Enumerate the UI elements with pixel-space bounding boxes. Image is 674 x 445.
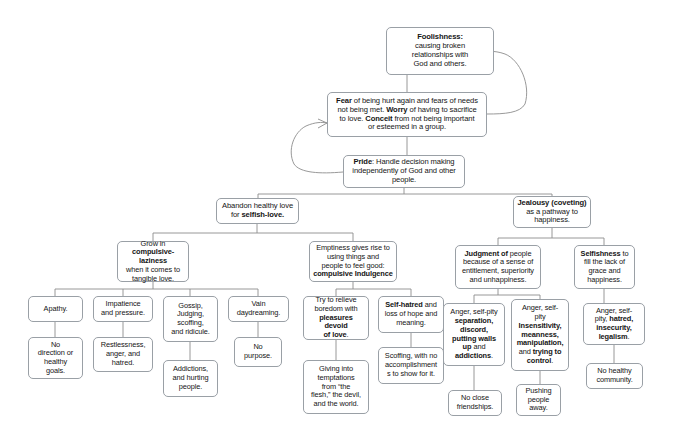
diagram-canvas: Foolishness:causing brokenrelationships … (0, 0, 674, 445)
node-addictions-hurting-people[interactable]: Addictions,and hurtingpeople. (163, 360, 218, 397)
node-pride[interactable]: Pride: Handle decision makingindependent… (343, 155, 465, 188)
node-emptiness-compulsive-indulgence[interactable]: Emptiness gives rise tousing things andp… (309, 241, 397, 282)
node-judgment-of-people[interactable]: Judgment of peoplebecause of a sense ofe… (455, 245, 541, 289)
node-giving-into-temptations-label: Giving intotemptationsfrom “theflesh,” t… (307, 365, 365, 409)
node-no-purpose[interactable]: Nopurpose. (234, 337, 282, 367)
node-compulsive-laziness-label: Grow incompulsive-lazinesswhen it comes … (121, 240, 185, 284)
node-selfishness-label: Selfishness tofill the lack ofgrace andh… (578, 250, 631, 285)
node-anger-hatred-insecurity-legalism-label: Anger, self-pity, hatred,insecurity,lega… (587, 307, 641, 342)
node-impatience-and-pressure[interactable]: Impatienceand pressure. (93, 296, 153, 322)
node-fear-worry-conceit-label: Fear of being hurt again and fears of ne… (331, 97, 483, 133)
node-foolishness-label: Foolishness:causing brokenrelationships … (390, 33, 490, 69)
node-gossip-judging-scoffing-label: Gossip,Judging,scoffing,and ridicule. (167, 302, 214, 337)
node-restlessness-anger-hatred[interactable]: Restlessness,anger, andhatred. (93, 337, 153, 372)
node-relieve-boredom[interactable]: Try to relieveboredom withpleasures devo… (303, 296, 369, 340)
node-fear-worry-conceit[interactable]: Fear of being hurt again and fears of ne… (327, 92, 487, 137)
node-anger-separation-discord[interactable]: Anger, self-pityseparation,discord,putti… (443, 303, 505, 366)
node-gossip-judging-scoffing[interactable]: Gossip,Judging,scoffing,and ridicule. (163, 296, 218, 342)
node-scoffing-no-accomplishments-label: Scoffing, with noaccomplishments to show… (382, 352, 440, 378)
edge-emptiness-bus (336, 282, 411, 296)
node-no-direction-healthy-goals-label: Nodirection orhealthygoals. (32, 341, 79, 376)
node-anger-separation-discord-label: Anger, self-pityseparation,discord,putti… (447, 308, 501, 360)
node-emptiness-compulsive-indulgence-label: Emptiness gives rise tousing things andp… (313, 244, 393, 279)
node-apathy[interactable]: Apathy. (28, 296, 83, 322)
node-jealousy-coveting[interactable]: Jealousy (coveting)as a pathway tohappin… (513, 196, 591, 228)
node-no-close-friendships[interactable]: No closefriendships. (448, 390, 502, 416)
node-foolishness[interactable]: Foolishness:causing brokenrelationships … (386, 27, 494, 75)
node-abandon-healthy-love[interactable]: Abandon healthy lovefor selfish-love. (216, 198, 299, 224)
node-vain-daydreaming-label: Vaindaydreaming. (232, 300, 285, 317)
node-no-healthy-community-label: No healthycommunity. (590, 367, 639, 384)
node-no-close-friendships-label: No closefriendships. (452, 394, 498, 411)
node-selfishness[interactable]: Selfishness tofill the lack ofgrace andh… (574, 245, 635, 289)
node-pushing-people-away[interactable]: Pushingpeopleaway. (516, 384, 561, 416)
node-no-purpose-label: Nopurpose. (238, 343, 278, 360)
node-giving-into-temptations[interactable]: Giving intotemptationsfrom “theflesh,” t… (303, 360, 369, 414)
node-no-healthy-community[interactable]: No healthycommunity. (586, 363, 643, 389)
node-anger-insensitivity-manipulation-label: Anger, self-pityInsensitivity,meanness,m… (515, 304, 565, 365)
node-self-hatred[interactable]: Self-hatred andloss of hope andmeaning. (378, 296, 444, 333)
node-impatience-and-pressure-label: Impatienceand pressure. (97, 300, 149, 317)
edge-abandon-bus (153, 224, 353, 241)
node-vain-daydreaming[interactable]: Vaindaydreaming. (228, 296, 289, 322)
node-pride-label: Pride: Handle decision makingindependent… (347, 158, 461, 185)
node-anger-insensitivity-manipulation[interactable]: Anger, self-pityInsensitivity,meanness,m… (511, 299, 569, 371)
edge-pride-to-row (258, 188, 552, 198)
node-self-hatred-label: Self-hatred andloss of hope andmeaning. (382, 301, 440, 327)
edge-jealousy-bus (498, 228, 604, 245)
node-anger-hatred-insecurity-legalism[interactable]: Anger, self-pity, hatred,insecurity,lega… (583, 303, 645, 345)
node-judgment-of-people-label: Judgment of peoplebecause of a sense ofe… (459, 250, 537, 285)
node-apathy-label: Apathy. (32, 305, 79, 314)
edge-feedback-left-loop-arrowhead (318, 119, 327, 128)
node-scoffing-no-accomplishments[interactable]: Scoffing, with noaccomplishments to show… (378, 347, 444, 384)
node-restlessness-anger-hatred-label: Restlessness,anger, andhatred. (97, 341, 149, 367)
node-jealousy-coveting-label: Jealousy (coveting)as a pathway tohappin… (517, 199, 587, 226)
node-addictions-hurting-people-label: Addictions,and hurtingpeople. (167, 365, 214, 391)
node-relieve-boredom-label: Try to relieveboredom withpleasures devo… (307, 296, 365, 340)
node-compulsive-laziness[interactable]: Grow incompulsive-lazinesswhen it comes … (117, 241, 189, 282)
edge-laziness-bus (55, 282, 258, 296)
node-no-direction-healthy-goals[interactable]: Nodirection orhealthygoals. (28, 337, 83, 379)
node-abandon-healthy-love-label: Abandon healthy lovefor selfish-love. (220, 202, 295, 220)
node-pushing-people-away-label: Pushingpeopleaway. (520, 387, 557, 413)
